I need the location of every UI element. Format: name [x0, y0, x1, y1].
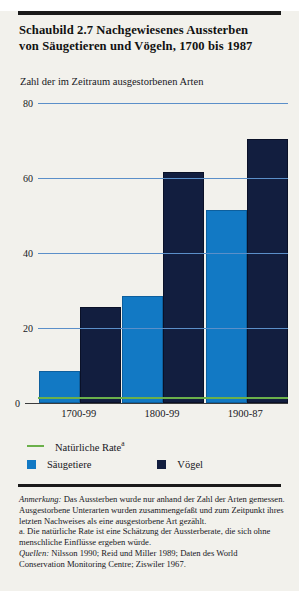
y-tick-label-40: 40	[23, 248, 33, 259]
legend-item-natural-rate: Natürliche Ratea	[27, 439, 125, 453]
legend-footnote-marker: a	[121, 439, 124, 448]
x-tick-label-1700-99: 1700-99	[61, 408, 96, 419]
figure-page: Schaubild 2.7 Nachgewiesenes Aussterben …	[0, 0, 299, 591]
x-tick-label-1900-87: 1900-87	[228, 408, 263, 419]
chart-legend: Natürliche Ratea Säugetiere Vögel	[27, 437, 277, 473]
gridline-0: 0	[25, 403, 288, 404]
note-quellen-text: Nilsson 1990; Reid und Miller 1989; Date…	[19, 548, 238, 569]
gridline-40: 40	[38, 253, 288, 254]
bar-1700-99-Vögel	[80, 307, 121, 403]
gridline-60: 60	[38, 178, 288, 179]
bar-1800-99-Säugetiere	[122, 296, 163, 403]
x-axis-labels: 1700-991800-991900-87	[38, 408, 288, 424]
legend-swatch-birds-icon	[157, 460, 166, 469]
note-anmerkung: Anmerkung: Das Aussterben wurde nur anha…	[19, 494, 285, 526]
note-footnote-a: a. Die natürliche Rate ist eine Schätzun…	[19, 526, 285, 548]
gridline-80: 80	[38, 103, 288, 104]
gridline-20: 20	[38, 328, 288, 329]
note-quellen: Quellen: Nilsson 1990; Reid und Miller 1…	[19, 548, 285, 570]
y-tick-label-0: 0	[15, 398, 20, 409]
natural-rate-line	[38, 397, 288, 399]
y-tick-label-80: 80	[23, 98, 33, 109]
y-tick-label-60: 60	[23, 173, 33, 184]
y-tick-label-20: 20	[23, 323, 33, 334]
plot-area: 020406080	[38, 103, 288, 403]
legend-item-birds: Vögel	[157, 459, 203, 470]
figure-title-line-1: Schaubild 2.7 Nachgewiesenes Aussterben	[19, 22, 285, 38]
bar-1800-99-Vögel	[163, 172, 204, 403]
page-top-margin	[0, 0, 299, 11]
bar-chart: 020406080 1700-991800-991900-87	[0, 92, 299, 422]
x-tick-label-1800-99: 1800-99	[145, 408, 180, 419]
bar-1900-87-Säugetiere	[206, 210, 247, 403]
legend-row-natural-rate: Natürliche Ratea	[27, 437, 277, 455]
top-rule	[18, 11, 281, 15]
figure-notes: Anmerkung: Das Aussterben wurde nur anha…	[19, 494, 285, 570]
bottom-rule	[18, 484, 281, 487]
figure-title-line-2: von Säugetieren und Vögeln, 1700 bis 198…	[19, 38, 285, 54]
note-quellen-label: Quellen:	[19, 548, 49, 558]
legend-label-mammals: Säugetiere	[47, 459, 91, 470]
legend-item-mammals: Säugetiere	[27, 459, 91, 470]
legend-swatch-mammals-icon	[27, 460, 36, 469]
figure-title: Schaubild 2.7 Nachgewiesenes Aussterben …	[19, 22, 285, 54]
legend-label-natural-rate: Natürliche Ratea	[55, 439, 125, 453]
legend-row-series: Säugetiere Vögel	[27, 455, 277, 473]
legend-label-birds: Vögel	[177, 459, 203, 470]
axis-caption: Zahl der im Zeitraum ausgestorbenen Arte…	[20, 76, 203, 88]
legend-line-swatch-icon	[27, 445, 44, 447]
note-anmerkung-label: Anmerkung:	[19, 494, 61, 504]
